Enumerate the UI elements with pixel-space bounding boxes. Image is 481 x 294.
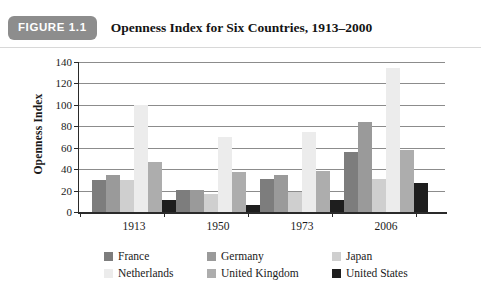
x-axis-tick-label: 2006: [375, 220, 398, 232]
legend-swatch: [207, 252, 216, 261]
bar: [260, 179, 274, 212]
legend-swatch: [104, 252, 113, 261]
x-axis-tick-mark: [80, 212, 81, 217]
bar: [274, 175, 288, 213]
chart-container: Openness Index 020406080100120140 191319…: [0, 50, 481, 294]
bar: [358, 122, 372, 212]
legend-item-germany: Germany: [207, 251, 332, 263]
legend-item-japan: Japan: [332, 251, 434, 263]
bar: [190, 190, 204, 213]
bar: [204, 194, 218, 212]
bar: [218, 137, 232, 212]
legend-swatch: [332, 269, 341, 278]
bar: [92, 180, 106, 212]
x-axis-tick-mark: [164, 212, 165, 217]
y-axis-tick-mark: [74, 169, 78, 170]
bar: [176, 190, 190, 213]
x-axis-tick-mark: [248, 212, 249, 217]
x-axis-tick-mark: [416, 212, 417, 217]
bar: [372, 179, 386, 212]
bar: [232, 172, 246, 212]
figure-header: FIGURE 1.1 Openness Index for Six Countr…: [0, 14, 481, 42]
y-axis-tick-mark: [74, 148, 78, 149]
bar: [400, 150, 414, 212]
legend-item-france: France: [104, 251, 207, 263]
y-axis-tick-mark: [74, 212, 78, 213]
bar: [386, 68, 400, 212]
y-axis-tick-mark: [74, 126, 78, 127]
legend-item-united-states: United States: [332, 268, 434, 280]
x-axis-tick-label: 1973: [291, 220, 314, 232]
plot-inner: [78, 62, 445, 212]
y-axis-tick-mark: [74, 191, 78, 192]
bar: [288, 192, 302, 212]
legend-swatch: [104, 269, 113, 278]
bar: [330, 200, 344, 212]
bar: [106, 175, 120, 213]
y-axis-line: [78, 62, 79, 212]
y-axis-tick-label: 20: [61, 185, 72, 197]
bar: [162, 200, 176, 212]
y-axis-tick-mark: [74, 83, 78, 84]
y-axis-tick-mark: [74, 62, 78, 63]
bar: [414, 183, 428, 212]
bar-group-1950: [176, 62, 260, 212]
bar: [302, 132, 316, 212]
x-axis-tick-label: 1950: [207, 220, 230, 232]
legend-label: Germany: [221, 251, 264, 263]
legend-label: Netherlands: [118, 268, 174, 280]
y-axis-tick-label: 40: [61, 163, 72, 175]
bar: [148, 162, 162, 212]
bar-group-2006: [344, 62, 428, 212]
legend-label: United States: [346, 268, 408, 280]
bar-group-1913: [92, 62, 176, 212]
x-axis-tick-label: 1913: [123, 220, 146, 232]
x-axis-line: [78, 212, 447, 214]
plot-area: 020406080100120140 1913195019732006: [78, 62, 445, 212]
bar-group-1973: [260, 62, 344, 212]
y-axis-tick-label: 100: [56, 99, 73, 111]
y-axis-tick-label: 80: [61, 120, 72, 132]
legend-label: Japan: [346, 251, 372, 263]
y-axis-tick-mark: [74, 105, 78, 106]
y-axis-tick-label: 60: [61, 142, 72, 154]
figure-number-badge: FIGURE 1.1: [8, 16, 97, 40]
y-axis-tick-label: 120: [56, 77, 73, 89]
legend-label: United Kingdom: [221, 268, 299, 280]
bar: [134, 105, 148, 212]
figure-title: Openness Index for Six Countries, 1913–2…: [111, 20, 373, 36]
bar: [344, 152, 358, 212]
y-axis-tick-label: 0: [67, 206, 73, 218]
chart-legend: FranceGermanyJapanNetherlandsUnited King…: [104, 248, 434, 282]
bar: [120, 180, 134, 212]
bar: [246, 205, 260, 213]
legend-item-netherlands: Netherlands: [104, 268, 207, 280]
y-axis-tick-label: 140: [56, 56, 73, 68]
legend-swatch: [207, 269, 216, 278]
legend-item-united-kingdom: United Kingdom: [207, 268, 332, 280]
x-axis-tick-mark: [332, 212, 333, 217]
legend-swatch: [332, 252, 341, 261]
y-axis-title: Openness Index: [32, 74, 44, 194]
bar: [316, 171, 330, 212]
header-divider: [0, 47, 481, 48]
legend-label: France: [118, 251, 149, 263]
